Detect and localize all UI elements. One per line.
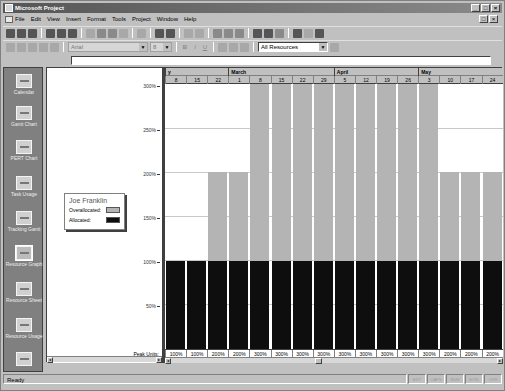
allocated-segment — [356, 261, 375, 349]
project-app-icon — [5, 4, 13, 12]
insert-hyperlink-icon[interactable] — [155, 29, 164, 38]
toolbar-separator — [63, 42, 64, 52]
show-icon[interactable] — [50, 43, 59, 52]
menu-edit[interactable]: Edit — [31, 14, 41, 25]
legend-box: Joe Franklin Overallocated: Allocated: — [64, 193, 125, 230]
allocated-segment — [461, 261, 480, 349]
overallocated-segment — [250, 84, 269, 261]
goto-selected-task-icon[interactable] — [275, 29, 284, 38]
menu-view[interactable]: View — [47, 14, 60, 25]
view-calendar[interactable]: Calendar — [4, 74, 44, 95]
task-information-icon[interactable] — [213, 29, 222, 38]
save-icon[interactable] — [28, 29, 37, 38]
view-resource-usage[interactable]: Resource Usage — [4, 318, 44, 339]
bold-button[interactable]: B — [181, 44, 189, 50]
open-icon[interactable] — [17, 29, 26, 38]
timescale-week: 22 — [207, 76, 228, 84]
entry-field[interactable] — [71, 56, 491, 65]
menu-file[interactable]: File — [15, 14, 25, 25]
status-text: Ready — [3, 374, 407, 384]
menu-insert[interactable]: Insert — [66, 14, 81, 25]
link-tasks-icon[interactable] — [166, 29, 175, 38]
align-left-icon[interactable] — [218, 43, 227, 52]
autofilter-icon[interactable] — [330, 43, 339, 52]
zoom-out-icon[interactable] — [264, 29, 273, 38]
gantt-chart-wizard-icon[interactable] — [304, 29, 313, 38]
new-icon[interactable] — [6, 29, 15, 38]
chevron-down-icon[interactable]: ▼ — [319, 43, 327, 51]
allocated-segment — [314, 261, 333, 349]
scroll-thumb[interactable] — [315, 358, 322, 364]
timescale-week: 12 — [355, 76, 376, 84]
menu-help[interactable]: Help — [184, 14, 196, 25]
help-icon[interactable] — [315, 29, 324, 38]
indent-icon[interactable] — [17, 43, 26, 52]
view-more-views[interactable] — [4, 352, 44, 367]
timescale-month: March — [228, 68, 334, 76]
undo-icon[interactable] — [137, 29, 146, 38]
view-tracking-gantt[interactable]: Tracking Gantt — [4, 211, 44, 232]
maximize-button[interactable]: □ — [481, 4, 490, 12]
scroll-left-arrow[interactable]: ◂ — [165, 358, 171, 364]
menu-tools[interactable]: Tools — [112, 14, 126, 25]
document-close-button[interactable]: × — [489, 15, 498, 23]
week-bar — [229, 172, 248, 349]
allocated-segment — [419, 261, 438, 349]
spelling-icon[interactable] — [68, 29, 77, 38]
italic-button[interactable]: I — [191, 44, 199, 50]
view-label: Resource Usage — [5, 333, 42, 339]
view-label: Gantt Chart — [11, 121, 37, 127]
assign-resources-icon[interactable] — [235, 29, 244, 38]
allocated-segment — [293, 261, 312, 349]
scroll-left-arrow[interactable]: ◂ — [47, 357, 53, 363]
print-icon[interactable] — [46, 29, 55, 38]
view-gantt-chart[interactable]: Gantt Chart — [4, 106, 44, 127]
view-resource-sheet[interactable]: Resource Sheet — [4, 282, 44, 303]
document-restore-button[interactable]: □ — [479, 15, 488, 23]
legend-scrollbar[interactable]: ◂ ▸ — [47, 356, 162, 362]
zoom-in-icon[interactable] — [253, 29, 262, 38]
view-task-usage[interactable]: Task Usage — [4, 176, 44, 197]
show-subtasks-icon[interactable] — [28, 43, 37, 52]
status-caps: CAPS — [427, 374, 445, 384]
more-views-icon — [16, 352, 32, 366]
week-bar — [314, 84, 333, 349]
copy-icon[interactable] — [97, 29, 106, 38]
timescale-week: 22 — [292, 76, 313, 84]
status-num: NUM — [446, 374, 464, 384]
document-icon[interactable] — [5, 16, 13, 23]
unlink-tasks-icon[interactable] — [184, 29, 193, 38]
font-size-select[interactable]: 8 ▼ — [150, 42, 172, 52]
menu-window[interactable]: Window — [157, 14, 178, 25]
y-tick: 250% — [143, 127, 160, 133]
application-window: Microsoft Project _ □ × File Edit View I… — [0, 0, 505, 391]
menu-project[interactable]: Project — [132, 14, 151, 25]
view-label: Resource Graph — [6, 261, 43, 267]
chevron-down-icon[interactable]: ▼ — [139, 43, 147, 51]
font-select[interactable]: Arial ▼ — [68, 42, 148, 52]
cut-icon[interactable] — [86, 29, 95, 38]
align-center-icon[interactable] — [229, 43, 238, 52]
view-pert-chart[interactable]: PERT Chart — [4, 140, 44, 161]
align-right-icon[interactable] — [240, 43, 249, 52]
menu-format[interactable]: Format — [87, 14, 106, 25]
close-button[interactable]: × — [491, 4, 500, 12]
copy-picture-icon[interactable] — [293, 29, 302, 38]
scroll-right-arrow[interactable]: ▸ — [497, 358, 503, 364]
chevron-down-icon[interactable]: ▼ — [163, 43, 171, 51]
print-preview-icon[interactable] — [57, 29, 66, 38]
task-notes-icon[interactable] — [224, 29, 233, 38]
format-painter-icon[interactable] — [119, 29, 128, 38]
filter-select[interactable]: All Resources ▼ — [258, 42, 328, 52]
view-label: Task Usage — [11, 191, 37, 197]
graph-scrollbar[interactable]: ◂ ▸ — [165, 357, 503, 363]
y-tick: 50% — [146, 303, 160, 309]
underline-button[interactable]: U — [201, 44, 209, 50]
hide-subtasks-icon[interactable] — [39, 43, 48, 52]
view-resource-graph[interactable]: Resource Graph — [4, 246, 44, 267]
outdent-icon[interactable] — [6, 43, 15, 52]
minimize-button[interactable]: _ — [471, 4, 480, 12]
paste-icon[interactable] — [108, 29, 117, 38]
status-ext: EXT — [408, 374, 426, 384]
split-task-icon[interactable] — [195, 29, 204, 38]
